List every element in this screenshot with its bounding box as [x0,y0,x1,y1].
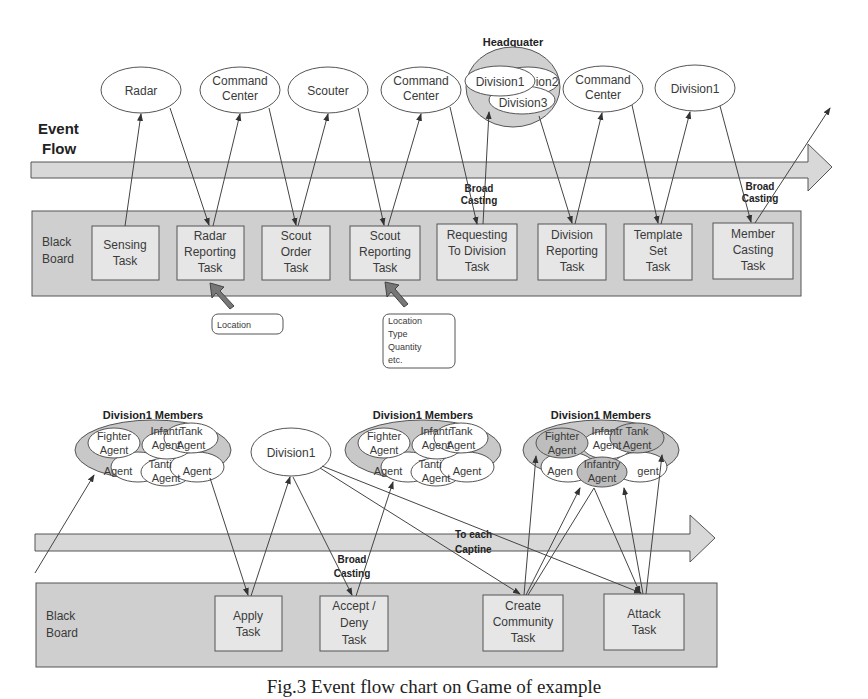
svg-text:Agent: Agent [177,439,206,451]
svg-text:Community: Community [493,615,554,629]
svg-text:Division1: Division1 [267,446,316,460]
svg-text:Scout: Scout [281,229,312,243]
svg-text:Task: Task [236,625,262,639]
svg-text:Task: Task [646,260,672,274]
hq-division1: Division1 [476,75,525,89]
division1-members-group-1: Division1 Members Fighter Agent Infantr … [75,409,231,486]
note-location-type-quantity: Location Type Quantity etc. [383,314,455,368]
svg-text:Command: Command [393,74,448,88]
svg-text:Reporting: Reporting [359,245,411,259]
svg-text:Reporting: Reporting [546,244,598,258]
event-flow-label-line1: Event [38,120,79,137]
svg-text:Location: Location [388,316,422,326]
svg-text:Agen: Agen [547,465,573,477]
to-each-captine-label: To each [455,529,492,540]
svg-text:Set: Set [649,244,668,258]
svg-text:Division1: Division1 [671,82,720,96]
broadcasting-label-2b: Casting [742,193,779,204]
to-each-captine-label-b: Captine [455,544,492,555]
svg-text:To Division: To Division [448,244,506,258]
svg-text:Agent: Agent [447,439,476,451]
svg-text:Division1 Members: Division1 Members [551,409,651,421]
node-command-center-3: Command Center [563,66,643,112]
node-command-center-2: Command Center [381,67,461,113]
svg-text:Location: Location [217,320,251,330]
division1-members-group-3: Division1 Members Fighter Agent Infantr … [523,409,679,487]
svg-text:Type: Type [388,329,408,339]
event-flow-label-line2: Flow [42,140,76,157]
svg-text:Command: Command [212,74,267,88]
svg-text:Reporting: Reporting [184,245,236,259]
svg-text:Infantr: Infantr [420,425,452,437]
svg-text:Black: Black [42,235,72,249]
svg-text:Agent: Agent [152,472,181,484]
svg-text:Infantr: Infantr [591,425,623,437]
svg-text:Agent: Agent [100,444,129,456]
svg-text:Requesting: Requesting [447,228,508,242]
svg-text:Center: Center [585,88,621,102]
svg-text:Tank: Tank [179,425,203,437]
svg-text:Task: Task [465,260,491,274]
svg-text:Center: Center [403,89,439,103]
hq-division2: ion2 [536,75,559,89]
svg-text:Center: Center [222,89,258,103]
broadcasting-label-1b: Casting [461,195,498,206]
task-scout-reporting: Scout Reporting Task [350,226,420,280]
svg-text:Agent: Agent [453,465,482,477]
svg-text:Agent: Agent [370,444,399,456]
task-scout-order: Scout Order Task [262,226,330,280]
svg-text:Deny: Deny [340,616,368,630]
svg-text:Infantr: Infantr [150,425,182,437]
figure-caption: Fig.3 Event flow chart on Game of exampl… [0,676,868,698]
task-accept-deny: Accept / Deny Task [320,596,388,651]
svg-text:Task: Task [511,631,537,645]
svg-text:Agent: Agent [588,472,617,484]
task-member-casting: Member Casting Task [713,223,793,279]
svg-text:gent: gent [637,465,658,477]
node-division1-bottom: Division1 [251,428,331,476]
svg-text:Tanti: Tanti [418,458,441,470]
svg-text:Command: Command [575,73,630,87]
broadcasting-label-bottom: Broad [338,554,367,565]
svg-text:Template: Template [634,228,683,242]
svg-text:Agent: Agent [593,439,622,451]
svg-text:Apply: Apply [233,609,263,623]
svg-text:Tank: Tank [625,425,649,437]
svg-text:Attack: Attack [627,607,661,621]
svg-text:Member: Member [731,227,775,241]
svg-text:Task: Task [373,261,399,275]
svg-text:etc.: etc. [388,355,403,365]
svg-text:Infantry: Infantry [584,458,621,470]
svg-text:Scouter: Scouter [307,84,348,98]
svg-text:Task: Task [284,261,310,275]
svg-text:Board: Board [46,626,78,640]
svg-text:Agent: Agent [422,472,451,484]
svg-text:Create: Create [505,599,541,613]
svg-text:Agent: Agent [183,465,212,477]
svg-text:Sensing: Sensing [103,238,146,252]
svg-text:Task: Task [560,260,586,274]
svg-text:Task: Task [113,254,139,268]
task-template-set: Template Set Task [624,224,692,280]
node-scouter: Scouter [288,67,368,113]
svg-text:Quantity: Quantity [388,342,422,352]
svg-text:Fighter: Fighter [97,430,132,442]
node-command-center-1: Command Center [200,67,280,113]
task-radar-reporting: Radar Reporting Task [177,226,244,280]
svg-text:Task: Task [198,261,224,275]
svg-text:Scout: Scout [370,229,401,243]
division1-members-group-2: Division1 Members Fighter Agent Infantr … [345,409,501,486]
event-flow-band-top [31,144,832,191]
svg-text:Tank: Tank [449,425,473,437]
svg-text:Tanti: Tanti [148,458,171,470]
note-location: Location [212,314,283,334]
svg-text:Headquater: Headquater [483,36,544,48]
svg-text:Agent: Agent [374,465,403,477]
svg-text:Radar: Radar [194,229,227,243]
task-sensing: Sensing Task [92,226,159,280]
task-create-community: Create Community Task [483,595,563,651]
svg-text:Task: Task [741,259,767,273]
svg-text:Task: Task [632,623,658,637]
svg-text:Casting: Casting [733,243,774,257]
svg-text:Agent: Agent [623,439,652,451]
